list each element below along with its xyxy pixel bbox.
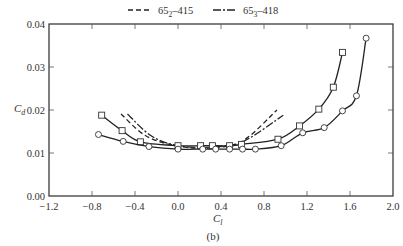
square-marker <box>316 106 322 112</box>
circle-marker <box>353 93 359 99</box>
x-tick-label: 0.8 <box>257 201 270 212</box>
circle-marker <box>95 132 101 138</box>
circle-marker <box>227 146 233 152</box>
x-tick-label: 1.6 <box>343 201 356 212</box>
circle-marker <box>240 146 246 152</box>
circle-marker <box>146 144 152 150</box>
square-marker <box>137 139 143 145</box>
x-tick-label: 0.4 <box>214 201 228 212</box>
x-tick-label: 2.0 <box>386 201 399 212</box>
y-tick-label: 0.03 <box>27 62 45 73</box>
circle-marker <box>120 138 126 144</box>
square-marker <box>275 136 281 142</box>
circle-marker <box>300 130 306 136</box>
x-tick-label: 1.2 <box>300 201 313 212</box>
square-marker <box>99 112 105 118</box>
axis-ticks: −1.2−0.8−0.40.00.40.81.21.62.00.000.010.… <box>27 19 400 212</box>
y-tick-label: 0.00 <box>27 191 45 202</box>
circle-marker <box>200 146 206 152</box>
x-tick-label: −0.4 <box>125 201 145 212</box>
circle-marker <box>278 143 284 149</box>
series-layer <box>95 35 369 152</box>
circle-marker <box>363 35 369 41</box>
figure-caption: (b) <box>207 230 220 243</box>
x-tick-label: −0.8 <box>82 201 101 212</box>
square-marker <box>119 128 125 134</box>
square-marker <box>339 49 345 55</box>
y-tick-label: 0.01 <box>27 148 45 159</box>
series-line-3 <box>98 38 366 149</box>
circle-marker <box>252 146 258 152</box>
y-tick-label: 0.04 <box>27 19 46 30</box>
y-tick-label: 0.02 <box>27 105 45 116</box>
legend-label: 652–415 <box>158 5 193 19</box>
y-axis-title: Cd <box>14 102 26 117</box>
square-marker <box>296 123 302 129</box>
x-tick-label: −1.2 <box>39 201 58 212</box>
circle-marker <box>175 146 181 152</box>
square-marker <box>330 84 336 90</box>
legend-label: 653–418 <box>243 5 278 19</box>
legend: 652–415653–418 <box>128 5 278 19</box>
drag-polar-chart: 652–415653–418 −1.2−0.8−0.40.00.40.81.21… <box>0 0 403 246</box>
circle-marker <box>339 108 345 114</box>
x-tick-label: 0.0 <box>171 201 184 212</box>
circle-marker <box>321 125 327 131</box>
circle-marker <box>213 146 219 152</box>
x-axis-title: Cl <box>213 212 223 227</box>
